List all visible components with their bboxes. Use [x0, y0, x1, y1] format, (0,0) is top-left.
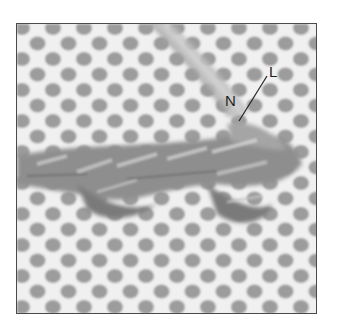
label-n: N [225, 93, 236, 108]
photo-frame: L N [16, 23, 317, 314]
label-l: L [269, 64, 277, 79]
